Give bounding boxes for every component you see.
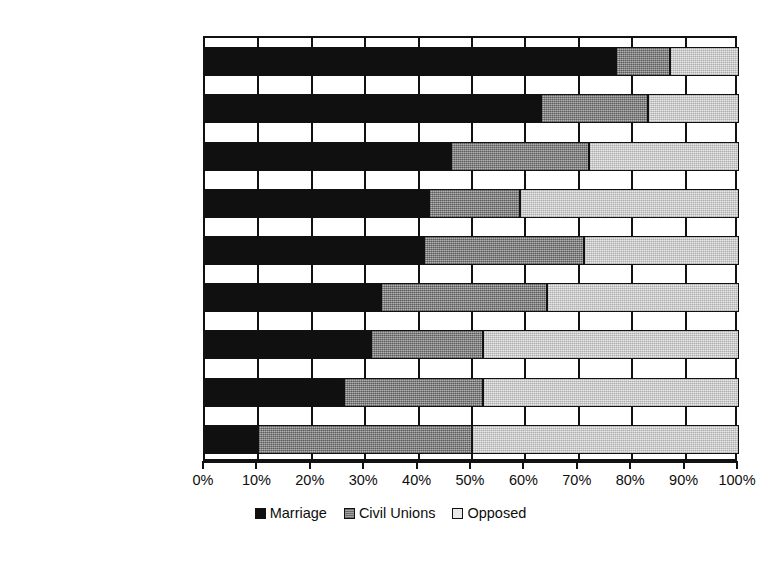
bar-row <box>205 425 735 454</box>
bar-row <box>205 236 735 265</box>
bar-segment-marriage <box>205 236 424 265</box>
bar-segment-marriage <box>205 47 616 76</box>
bar-segment-opposed <box>648 94 739 123</box>
bar-segment-opposed <box>472 425 739 454</box>
x-tick-label: 70% <box>562 472 591 488</box>
bar-row <box>205 47 735 76</box>
x-tick-label: 80% <box>616 472 645 488</box>
x-tick <box>576 461 578 469</box>
bar-segment-opposed <box>584 236 739 265</box>
x-tick <box>416 461 418 469</box>
x-tick <box>255 461 257 469</box>
bar-segment-marriage <box>205 330 371 359</box>
x-tick-label: 100% <box>718 472 755 488</box>
x-tick <box>362 461 364 469</box>
bar-row <box>205 283 735 312</box>
x-tick <box>683 461 685 469</box>
x-tick-label: 20% <box>295 472 324 488</box>
figure-container: JewsSecularsHispanic CatholicsHispanic P… <box>0 0 781 562</box>
bar-row <box>205 142 735 171</box>
legend-swatch-civil-unions-icon <box>344 508 355 519</box>
page-caption-strip <box>0 548 781 562</box>
bar-segment-opposed <box>589 142 739 171</box>
legend-swatch-opposed-icon <box>452 508 463 519</box>
x-tick-label: 90% <box>669 472 698 488</box>
bar-segment-marriage <box>205 94 541 123</box>
x-tick-label: 30% <box>349 472 378 488</box>
bar-row <box>205 330 735 359</box>
legend-label: Marriage <box>270 505 327 521</box>
x-tick <box>736 461 738 469</box>
bar-segment-marriage <box>205 378 344 407</box>
chart-legend: MarriageCivil UnionsOpposed <box>0 505 781 521</box>
bar-row <box>205 94 735 123</box>
bar-segment-opposed <box>670 47 739 76</box>
x-tick <box>522 461 524 469</box>
bar-segment-civil-unions <box>451 142 590 171</box>
legend-item-opposed: Opposed <box>452 505 526 521</box>
legend-item-civil-unions: Civil Unions <box>344 505 436 521</box>
bar-segment-civil-unions <box>258 425 472 454</box>
x-tick-label: 40% <box>402 472 431 488</box>
legend-label: Opposed <box>467 505 526 521</box>
x-tick <box>629 461 631 469</box>
bar-segment-civil-unions <box>424 236 584 265</box>
legend-label: Civil Unions <box>359 505 436 521</box>
bar-segment-opposed <box>483 378 739 407</box>
bar-segment-civil-unions <box>381 283 547 312</box>
plot-area <box>203 36 737 461</box>
x-tick-label: 10% <box>242 472 271 488</box>
x-tick <box>309 461 311 469</box>
legend-swatch-marriage-icon <box>255 508 266 519</box>
bar-row <box>205 378 735 407</box>
x-tick <box>469 461 471 469</box>
legend-item-marriage: Marriage <box>255 505 327 521</box>
bar-segment-marriage <box>205 283 381 312</box>
x-tick-label: 60% <box>509 472 538 488</box>
bar-segment-opposed <box>483 330 739 359</box>
bar-segment-civil-unions <box>541 94 648 123</box>
bar-segment-civil-unions <box>344 378 483 407</box>
bar-segment-civil-unions <box>371 330 483 359</box>
x-tick <box>202 461 204 469</box>
bar-segment-marriage <box>205 425 258 454</box>
x-tick-label: 0% <box>193 472 214 488</box>
bar-segment-opposed <box>547 283 739 312</box>
bar-segment-opposed <box>520 189 739 218</box>
bar-segment-civil-unions <box>616 47 669 76</box>
bar-row <box>205 189 735 218</box>
bar-segment-marriage <box>205 189 429 218</box>
bar-segment-marriage <box>205 142 451 171</box>
stacked-bars <box>205 38 735 459</box>
x-tick-label: 50% <box>455 472 484 488</box>
bar-segment-civil-unions <box>429 189 520 218</box>
